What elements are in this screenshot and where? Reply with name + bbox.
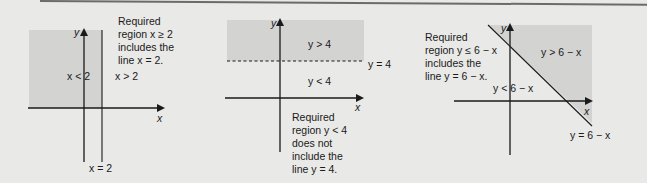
note-text: Required region x ≥ 2 includes the line … (118, 15, 174, 66)
note-line: does not (292, 137, 332, 149)
note-line: Required (292, 111, 335, 123)
diagram-x-ge-2: y x x < 2 x > 2 x = 2 Required region x … (28, 15, 174, 174)
note-line: include the (292, 150, 343, 162)
x-axis-label: x (354, 101, 361, 113)
note-line: region x ≥ 2 (118, 28, 173, 40)
note-line: includes the (118, 41, 174, 53)
region-label-below: y < 6 − x (493, 82, 534, 94)
note-line: Required (118, 15, 161, 27)
region-label-right: x > 2 (115, 70, 138, 82)
note-line: region y < 4 (292, 124, 347, 136)
note-line: line y = 4. (292, 163, 337, 175)
note-line: line x = 2. (118, 54, 163, 66)
shaded-region-y-gt-4 (227, 20, 364, 61)
figure-stage: y x x < 2 x > 2 x = 2 Required region x … (0, 0, 647, 189)
note-text: Required region y ≤ 6 − x includes the l… (425, 31, 498, 82)
note-line: Required (425, 31, 468, 43)
x-axis-label: x (156, 112, 163, 124)
boundary-label: y = 4 (368, 58, 391, 70)
note-line: includes the (425, 57, 481, 69)
x-axis-label: x (583, 105, 590, 117)
y-axis-label: y (270, 17, 277, 29)
note-line: region y ≤ 6 − x (425, 44, 498, 56)
region-label-left: x < 2 (67, 70, 90, 82)
shaded-region-x-lt-2 (29, 30, 102, 108)
region-label-above: y > 4 (308, 38, 331, 50)
region-label-below: y < 4 (308, 75, 331, 87)
inequality-diagrams: y x x < 2 x > 2 x = 2 Required region x … (0, 0, 647, 189)
y-axis-label: y (500, 22, 507, 34)
region-label-above: y > 6 − x (541, 46, 582, 58)
diagram-y-le-6-minus-x: y x y > 6 − x y < 6 − x y = 6 − x Requir… (425, 22, 611, 155)
y-axis-label: y (73, 26, 80, 38)
boundary-label: x = 2 (89, 162, 112, 174)
boundary-label: y = 6 − x (570, 129, 611, 141)
note-line: line y = 6 − x. (425, 70, 487, 82)
diagram-y-lt-4: y x y > 4 y < 4 y = 4 Required region y … (225, 17, 391, 175)
note-text: Required region y < 4 does not include t… (292, 111, 347, 175)
